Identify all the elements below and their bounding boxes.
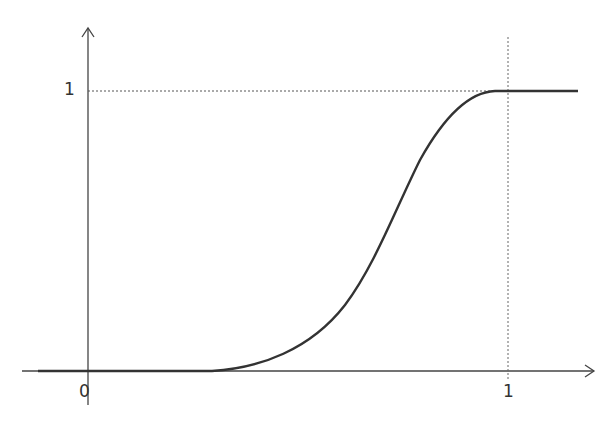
y-tick-label-1: 1 — [64, 79, 75, 99]
x-tick-label-0: 0 — [79, 381, 90, 401]
curve-series — [38, 91, 578, 371]
chart-canvas — [0, 0, 614, 421]
x-tick-label-1: 1 — [503, 381, 514, 401]
